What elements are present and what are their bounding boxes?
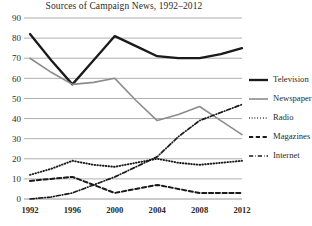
x-axis-tick-label: 2004 <box>149 205 167 215</box>
series-line-magazines <box>30 177 242 193</box>
y-axis-tick-label: 90 <box>12 13 22 23</box>
legend-label-television: Television <box>273 74 309 84</box>
x-axis-tick-labels: 199219962000200420082012 <box>21 205 250 215</box>
series-line-newspapers <box>30 58 242 134</box>
x-axis-tick-label: 2008 <box>191 205 209 215</box>
chart-legend: TelevisionNewspapersRadioMagazinesIntern… <box>249 74 312 160</box>
y-axis-tick-label: 50 <box>12 94 22 104</box>
y-axis-tick-label: 60 <box>12 74 22 84</box>
legend-label-newspapers: Newspapers <box>273 93 312 103</box>
y-axis-tick-label: 20 <box>12 154 22 164</box>
y-axis-tick-label: 70 <box>12 53 22 63</box>
legend-label-internet: Internet <box>273 150 300 160</box>
y-axis-tick-label: 40 <box>12 114 22 124</box>
x-axis-tick-label: 1996 <box>64 205 82 215</box>
chart-plot-area: 0102030405060708090 19921996200020042008… <box>0 0 312 226</box>
data-series-group <box>30 34 242 199</box>
y-axis-tick-label: 10 <box>12 174 22 184</box>
legend-label-radio: Radio <box>273 112 294 122</box>
y-axis-tick-labels: 0102030405060708090 <box>12 13 22 204</box>
y-axis-tick-label: 80 <box>12 33 22 43</box>
x-axis-tick-label: 2000 <box>106 205 123 215</box>
series-line-television <box>30 34 242 84</box>
y-axis-tick-label: 30 <box>12 134 22 144</box>
x-axis-tick-label: 1992 <box>21 205 38 215</box>
legend-label-magazines: Magazines <box>273 131 311 141</box>
chart-container: Sources of Campaign News, 1992–2012 0102… <box>0 0 312 226</box>
x-axis-tick-label: 2012 <box>233 205 250 215</box>
y-axis-tick-label: 0 <box>17 194 22 204</box>
